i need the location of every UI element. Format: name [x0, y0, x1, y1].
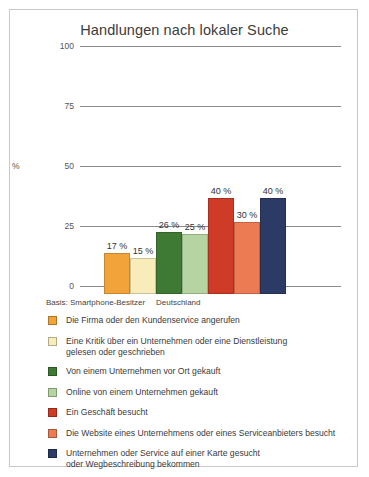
bar[interactable] [104, 253, 130, 294]
legend-item[interactable]: Die Firma oder den Kundenservice angeruf… [40, 315, 350, 327]
legend-item[interactable]: Eine Kritik über ein Unternehmen oder ei… [40, 336, 350, 358]
legend-label: Online von einem Unternehmen gekauft [66, 387, 350, 398]
legend-label: Von einem Unternehmen vor Ort gekauft [66, 366, 350, 377]
bar[interactable] [260, 198, 286, 294]
bar[interactable] [156, 232, 182, 294]
y-axis-tick-label: 100 [30, 41, 74, 51]
legend-item[interactable]: Unternehmen oder Service auf einer Karte… [40, 448, 350, 470]
bar-slot: 30 % [234, 54, 260, 294]
legend-item[interactable]: Online von einem Unternehmen gekauft [40, 387, 350, 399]
bar-slot: 40 % [208, 54, 234, 294]
bar-series: 17 %15 %26 %25 %40 %30 %40 % [104, 54, 286, 294]
y-axis-tick-label: 75 [30, 101, 74, 111]
chart-title: Handlungen nach lokaler Suche [10, 22, 359, 38]
bar[interactable] [234, 222, 260, 294]
legend-label: Eine Kritik über ein Unternehmen oder ei… [66, 336, 350, 358]
y-axis-title: % [12, 161, 20, 171]
legend-swatch-icon [48, 316, 57, 325]
legend-swatch-icon [48, 337, 57, 346]
legend-label: Die Firma oder den Kundenservice angeruf… [66, 315, 350, 326]
bar-slot: 17 % [104, 54, 130, 294]
bar-slot: 40 % [260, 54, 286, 294]
bar-slot: 26 % [156, 54, 182, 294]
legend-label: Die Website eines Unternehmens oder eine… [66, 428, 350, 439]
legend-swatch-icon [48, 367, 57, 376]
legend-label: Ein Geschäft besucht [66, 407, 350, 418]
gridline [80, 46, 341, 47]
legend-swatch-icon [48, 449, 57, 458]
bar-slot: 15 % [130, 54, 156, 294]
legend-item[interactable]: Ein Geschäft besucht [40, 407, 350, 419]
plot-area: 02550%75100 17 %15 %26 %25 %40 %30 %40 % [10, 46, 359, 294]
legend-item[interactable]: Von einem Unternehmen vor Ort gekauft [40, 366, 350, 378]
basis-caption: Basis: Smartphone-Besitzer [46, 298, 145, 307]
y-axis-tick-label: 25 [30, 221, 74, 231]
legend-label: Unternehmen oder Service auf einer Karte… [66, 448, 350, 470]
bar-slot: 25 % [182, 54, 208, 294]
legend-swatch-icon [48, 429, 57, 438]
bar-value-label: 40 % [254, 186, 292, 196]
legend-swatch-icon [48, 388, 57, 397]
chart-frame: Handlungen nach lokaler Suche 02550%7510… [9, 9, 358, 467]
bar[interactable] [130, 258, 156, 294]
bar[interactable] [182, 234, 208, 294]
legend-swatch-icon [48, 408, 57, 417]
region-caption: Deutschland [156, 298, 200, 307]
y-axis-tick-label: 50 [30, 161, 74, 171]
legend-item[interactable]: Die Website eines Unternehmens oder eine… [40, 428, 350, 440]
chart-legend: Die Firma oder den Kundenservice angeruf… [40, 315, 350, 477]
y-axis-tick-label: 0 [30, 281, 74, 291]
